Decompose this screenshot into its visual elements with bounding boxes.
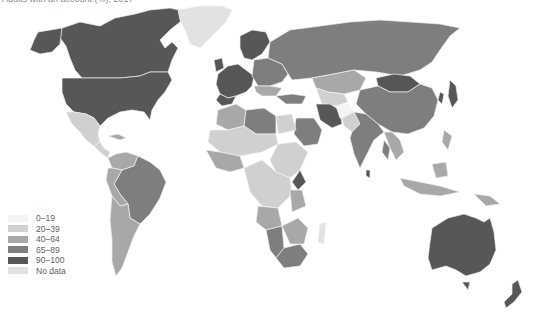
region-central-america (94, 142, 110, 158)
region-caribbean (108, 134, 126, 140)
legend-swatch (8, 267, 28, 274)
legend-item-65-89: 65–89 (8, 245, 66, 256)
region-png (474, 194, 500, 206)
region-tasmania (462, 282, 470, 290)
region-russia (268, 20, 460, 80)
legend-item-20-39: 20–39 (8, 224, 66, 235)
legend-item-no-data: No data (8, 266, 66, 277)
region-alaska (30, 28, 62, 54)
region-madagascar (318, 222, 326, 244)
legend-label: No data (36, 266, 66, 276)
region-philippines (442, 130, 452, 150)
legend-swatch (8, 215, 28, 222)
region-korea (438, 92, 444, 104)
region-australia (428, 214, 496, 276)
legend-swatch (8, 225, 28, 232)
region-egypt (276, 114, 296, 134)
legend-label: 65–89 (36, 245, 60, 255)
legend-swatch (8, 257, 28, 264)
region-north-africa-west (216, 104, 246, 130)
region-angola (256, 206, 282, 230)
region-tanzania (290, 190, 306, 212)
region-japan (448, 80, 458, 108)
region-saudi-arabia (294, 118, 322, 146)
region-balkans (254, 86, 282, 96)
legend-item-40-64: 40–64 (8, 234, 66, 245)
legend-swatch (8, 236, 28, 243)
region-scandinavia (240, 30, 270, 60)
legend-label: 40–64 (36, 234, 60, 244)
legend-item-0-19: 0–19 (8, 213, 66, 224)
region-sri-lanka (366, 170, 370, 178)
legend-label: 90–100 (36, 255, 64, 265)
region-borneo (432, 162, 448, 178)
region-indonesia (400, 178, 460, 196)
region-uk (214, 58, 224, 72)
legend-label: 0–19 (36, 213, 55, 223)
legend-item-90-100: 90–100 (8, 255, 66, 266)
region-turkey (276, 94, 306, 104)
region-canada (60, 8, 188, 78)
region-new-zealand (504, 280, 522, 308)
region-greenland (178, 6, 232, 48)
world-choropleth-map (0, 0, 551, 327)
region-southern-africa-east (282, 218, 308, 244)
legend-swatch (8, 246, 28, 253)
map-legend: 0–19 20–39 40–64 65–89 90–100 No data (8, 213, 66, 276)
legend-label: 20–39 (36, 224, 60, 234)
